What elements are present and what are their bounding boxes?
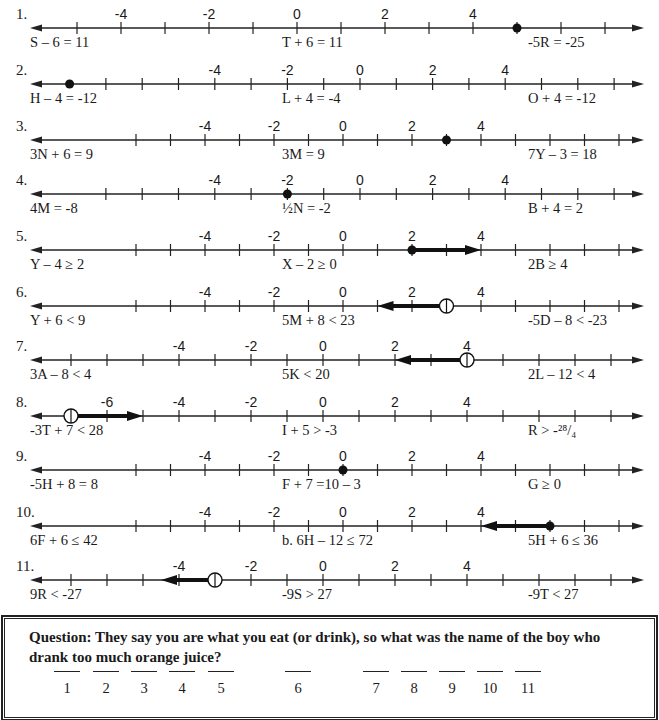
tick-label: 4 <box>477 448 485 464</box>
answer-blank-6[interactable]: 6 <box>285 671 311 697</box>
right-arrow-icon <box>632 81 644 88</box>
tick-label: 4 <box>477 118 485 134</box>
tick-label: 4 <box>463 338 471 354</box>
tick-label: -2 <box>245 338 257 354</box>
closed-point-icon <box>408 246 417 255</box>
blank-number: 6 <box>294 680 301 696</box>
closed-point-icon <box>283 190 292 199</box>
left-arrow-icon <box>30 191 42 198</box>
ray-arrow-icon <box>127 411 143 421</box>
problem-row-2: 2.-4-2024H – 4 = -12L + 4 = -4O + 4 = -1… <box>0 62 659 114</box>
question-box: Question: They say you are what you eat … <box>2 616 657 720</box>
equation-right: -9T < 27 <box>528 586 579 603</box>
tick-label: -4 <box>199 118 211 134</box>
tick-label: 4 <box>477 504 485 520</box>
blank-line[interactable] <box>54 671 80 680</box>
blank-number: 7 <box>372 680 379 696</box>
tick-label: -2 <box>203 6 215 22</box>
closed-point-icon <box>65 80 74 89</box>
tick-label: 4 <box>501 172 509 188</box>
blank-line[interactable] <box>208 671 234 680</box>
right-arrow-icon <box>632 357 644 364</box>
equation-right: -5R = -25 <box>528 34 585 51</box>
answer-blank-10[interactable]: 10 <box>477 671 503 697</box>
blank-number: 11 <box>521 680 535 696</box>
equation-right: 2L – 12 < 4 <box>528 366 595 383</box>
equation-mid: ½N = -2 <box>282 200 331 217</box>
equation-right: -5D – 8 < -23 <box>528 312 607 329</box>
blank-line[interactable] <box>439 671 465 680</box>
problem-row-7: 7.-4-20243A – 8 < 45K < 202L – 12 < 4 <box>0 338 659 390</box>
tick-label: -2 <box>281 62 293 78</box>
answer-blank-4[interactable]: 4 <box>169 671 195 697</box>
tick-label: -2 <box>268 118 280 134</box>
tick-label: -4 <box>199 284 211 300</box>
answer-blank-9[interactable]: 9 <box>439 671 465 697</box>
problem-row-11: 11.-4-20249R < -27-9S > 27-9T < 27 <box>0 558 659 610</box>
right-arrow-icon <box>632 247 644 254</box>
answer-blank-2[interactable]: 2 <box>93 671 119 697</box>
problem-row-9: 9.-4-2024-5H + 8 = 8F + 7 =10 – 3G ≥ 0 <box>0 448 659 500</box>
problem-row-3: 3.-4-20243N + 6 = 93M = 97Y – 3 = 18 <box>0 118 659 170</box>
answer-blank-7[interactable]: 7 <box>363 671 389 697</box>
equation-left: Y + 6 < 9 <box>30 312 85 329</box>
blank-line[interactable] <box>477 671 503 680</box>
equation-left: 9R < -27 <box>30 586 82 603</box>
blank-line[interactable] <box>401 671 427 680</box>
answer-blank-5[interactable]: 5 <box>208 671 234 697</box>
tick-label: 0 <box>356 172 364 188</box>
blank-line[interactable] <box>169 671 195 680</box>
equation-right: G ≥ 0 <box>528 476 561 493</box>
blank-line[interactable] <box>515 671 541 680</box>
tick-label: -2 <box>245 558 257 574</box>
ray-arrow-icon <box>481 521 497 531</box>
left-arrow-icon <box>30 467 42 474</box>
problem-row-10: 10.-4-20246F + 6 ≤ 42b. 6H – 12 ≤ 725H +… <box>0 504 659 556</box>
closed-point-icon <box>442 136 451 145</box>
closed-point-icon <box>513 24 522 33</box>
tick-label: -4 <box>199 448 211 464</box>
ray-arrow-icon <box>395 355 411 365</box>
problem-row-1: 1.-4-2024S – 6 = 11T + 6 = 11-5R = -25 <box>0 6 659 58</box>
ray-arrow-icon <box>161 575 177 585</box>
left-arrow-icon <box>30 523 42 530</box>
equation-left: H – 4 = -12 <box>30 90 97 107</box>
tick-label: -4 <box>115 6 127 22</box>
equation-mid: b. 6H – 12 ≤ 72 <box>282 532 373 549</box>
answer-blank-8[interactable]: 8 <box>401 671 427 697</box>
equation-mid: X – 2 ≥ 0 <box>282 256 337 273</box>
problem-row-8: 8.-6-4-2024-3T + 7 < 28I + 5 > -3R > -²⁸… <box>0 394 659 446</box>
right-arrow-icon <box>632 25 644 32</box>
tick-label: 0 <box>339 284 347 300</box>
equation-mid: -9S > 27 <box>282 586 332 603</box>
tick-label: 2 <box>381 6 389 22</box>
left-arrow-icon <box>30 247 42 254</box>
tick-label: -4 <box>199 228 211 244</box>
number-line-worksheet: 1.-4-2024S – 6 = 11T + 6 = 11-5R = -252.… <box>0 0 659 610</box>
tick-label: 2 <box>408 118 416 134</box>
blank-line[interactable] <box>93 671 119 680</box>
blank-line[interactable] <box>363 671 389 680</box>
left-arrow-icon <box>30 25 42 32</box>
tick-label: -4 <box>173 338 185 354</box>
blank-line[interactable] <box>285 671 311 680</box>
question-text: Question: They say you are what you eat … <box>29 627 629 667</box>
tick-label: 2 <box>408 228 416 244</box>
tick-label: 2 <box>391 338 399 354</box>
problem-row-4: 4.-4-20244M = -8½N = -2B + 4 = 2 <box>0 172 659 224</box>
left-arrow-icon <box>30 81 42 88</box>
right-arrow-icon <box>632 303 644 310</box>
equation-right: R > -²⁸/₄ <box>528 422 576 439</box>
answer-blank-3[interactable]: 3 <box>131 671 157 697</box>
right-arrow-icon <box>632 577 644 584</box>
tick-label: 0 <box>319 338 327 354</box>
tick-label: -4 <box>209 62 221 78</box>
right-arrow-icon <box>632 523 644 530</box>
blank-line[interactable] <box>131 671 157 680</box>
answer-blank-11[interactable]: 11 <box>515 671 541 697</box>
equation-left: S – 6 = 11 <box>30 34 89 51</box>
tick-label: 0 <box>319 558 327 574</box>
problem-row-6: 6.-4-2024Y + 6 < 95M + 8 < 23-5D – 8 < -… <box>0 284 659 336</box>
tick-label: 4 <box>463 558 471 574</box>
answer-blank-1[interactable]: 1 <box>54 671 80 697</box>
